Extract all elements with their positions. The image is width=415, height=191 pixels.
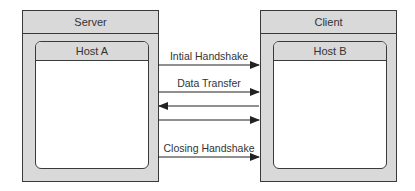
label-data-transfer: Data Transfer [177, 77, 241, 89]
label-initial-handshake: Intial Handshake [170, 50, 248, 62]
message-arrows [0, 0, 415, 191]
label-closing-handshake: Closing Handshake [163, 142, 254, 154]
